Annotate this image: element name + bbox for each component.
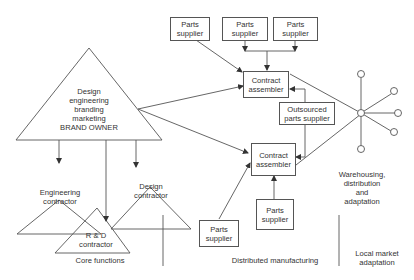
label-line: supplier [232, 29, 259, 38]
parts-supplier-box: Parts supplier [222, 17, 268, 41]
label-line: Parts [181, 20, 199, 29]
label-line: supplier [177, 29, 204, 38]
label-line: R & D [68, 231, 124, 240]
engineering-contractor-label: Engineering contractor [30, 188, 90, 206]
label-line: contractor [30, 197, 90, 206]
parts-supplier-box: Parts supplier [273, 17, 318, 41]
label-line: assembler [256, 160, 291, 169]
distributed-manufacturing-label: Distributed manufacturing [220, 256, 330, 265]
label-line: Contract [259, 151, 288, 160]
warehousing-label: Warehousing, distribution and adaptation [330, 170, 394, 206]
label-line: assembler [248, 85, 283, 94]
brand-owner-line: marketing [55, 114, 123, 123]
brand-owner-line: engineering [55, 96, 123, 105]
label-line: parts supplier [284, 114, 330, 123]
parts-supplier-box: Parts supplier [170, 17, 210, 41]
label-line: Outsourced [287, 105, 326, 114]
label-line: Warehousing, [330, 170, 394, 179]
label-line: Contract [252, 76, 281, 85]
label-line: Parts [287, 20, 305, 29]
parts-supplier-box: Parts supplier [199, 220, 239, 247]
label-line: and [330, 188, 394, 197]
outsourced-parts-supplier-box: Outsourced parts supplier [279, 102, 335, 125]
label-line: Parts [266, 206, 284, 215]
label-line: adaptation [330, 197, 394, 206]
label-line: Design [122, 182, 180, 191]
label-line: distribution [330, 179, 394, 188]
local-market-label: Local market adaptation [345, 249, 409, 267]
parts-supplier-box: Parts supplier [256, 199, 294, 230]
rd-contractor-label: R & D contractor [68, 231, 124, 249]
label-line: contractor [122, 191, 180, 200]
label-line: Parts [210, 225, 228, 234]
label-line: supplier [262, 215, 289, 224]
label-line: contractor [68, 240, 124, 249]
brand-owner-line: Design [55, 87, 123, 96]
contract-assembler-box: Contract assembler [251, 143, 296, 176]
brand-owner-line: branding [55, 105, 123, 114]
brand-owner-line: BRAND OWNER [55, 123, 123, 132]
label-line: adaptation [345, 258, 409, 267]
label-line: Local market [345, 249, 409, 258]
supply-network-diagram: Design engineering branding marketing BR… [0, 0, 414, 280]
core-functions-label: Core functions [65, 256, 135, 265]
design-contractor-label: Design contractor [122, 182, 180, 200]
label-line: Parts [236, 20, 254, 29]
contract-assembler-box: Contract assembler [243, 71, 289, 98]
brand-owner-label: Design engineering branding marketing BR… [55, 87, 123, 132]
label-line: supplier [282, 29, 309, 38]
label-line: Engineering [30, 188, 90, 197]
label-line: supplier [206, 234, 233, 243]
